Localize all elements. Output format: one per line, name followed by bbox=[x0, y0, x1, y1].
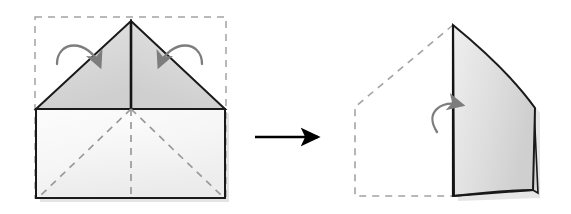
fold-diagram-canvas bbox=[0, 0, 571, 214]
right-folded-flap bbox=[131, 21, 225, 109]
step-right-group bbox=[355, 25, 540, 201]
left-folded-flap bbox=[36, 21, 131, 109]
ghost-folded-half bbox=[355, 25, 453, 196]
step-left-group bbox=[35, 17, 229, 202]
fold-diagram-container: Two-panel paper folding diagram. Left pa… bbox=[0, 0, 571, 214]
folded-paper-front bbox=[453, 25, 535, 196]
